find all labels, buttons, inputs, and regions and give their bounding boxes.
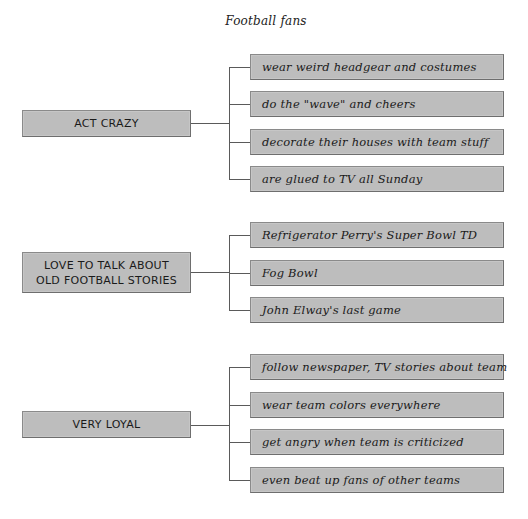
connector-branch <box>229 442 250 443</box>
connector-branch <box>229 405 250 406</box>
category-label-line1: LOVE TO TALK ABOUT <box>44 258 169 273</box>
connector-spine <box>229 67 230 180</box>
category-box-act-crazy: ACT CRAZY <box>22 110 191 137</box>
item-label: Fog Bowl <box>262 266 318 280</box>
connector-trunk <box>191 425 229 426</box>
item-box: do the "wave" and cheers <box>250 91 504 117</box>
category-label: VERY LOYAL <box>73 417 141 432</box>
item-label: do the "wave" and cheers <box>262 97 416 111</box>
connector-trunk <box>191 123 229 124</box>
category-box-love-to-talk: LOVE TO TALK ABOUT OLD FOOTBALL STORIES <box>22 252 191 293</box>
diagram-title: Football fans <box>0 14 528 28</box>
connector-branch <box>229 480 250 481</box>
category-label-line2: OLD FOOTBALL STORIES <box>36 273 177 288</box>
item-box: decorate their houses with team stuff <box>250 129 504 155</box>
item-box: get angry when team is criticized <box>250 429 504 455</box>
connector-branch <box>229 142 250 143</box>
diagram-title-text: Football fans <box>225 14 306 28</box>
item-box: wear weird headgear and costumes <box>250 54 504 80</box>
connector-branch <box>229 273 250 274</box>
connector-branch <box>229 179 250 180</box>
item-box: Fog Bowl <box>250 260 504 286</box>
item-label: decorate their houses with team stuff <box>262 135 489 149</box>
connector-trunk <box>191 272 229 273</box>
category-box-very-loyal: VERY LOYAL <box>22 411 191 438</box>
item-box: follow newspaper, TV stories about team <box>250 354 504 380</box>
connector-branch <box>229 367 250 368</box>
item-label: John Elway's last game <box>262 303 401 317</box>
item-label: are glued to TV all Sunday <box>262 172 422 186</box>
item-box: wear team colors everywhere <box>250 392 504 418</box>
connector-branch <box>229 310 250 311</box>
connector-branch <box>229 235 250 236</box>
item-label: wear weird headgear and costumes <box>262 60 477 74</box>
item-label: get angry when team is criticized <box>262 435 464 449</box>
item-label: wear team colors everywhere <box>262 398 440 412</box>
item-box: John Elway's last game <box>250 297 504 323</box>
category-label: ACT CRAZY <box>74 116 139 131</box>
item-label: Refrigerator Perry's Super Bowl TD <box>262 228 477 242</box>
item-box: even beat up fans of other teams <box>250 467 504 493</box>
connector-spine <box>229 367 230 480</box>
connector-branch <box>229 67 250 68</box>
item-box: Refrigerator Perry's Super Bowl TD <box>250 222 504 248</box>
connector-branch <box>229 104 250 105</box>
item-label: even beat up fans of other teams <box>262 473 460 487</box>
item-box: are glued to TV all Sunday <box>250 166 504 192</box>
item-label: follow newspaper, TV stories about team <box>262 360 507 374</box>
